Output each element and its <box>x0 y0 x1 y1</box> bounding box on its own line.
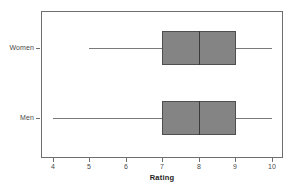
median-men <box>199 101 200 135</box>
xtick-mark-10 <box>272 158 273 162</box>
ytick-mark-men <box>36 118 40 119</box>
xtick-mark-5 <box>89 158 90 162</box>
ytick-label-women: Women <box>0 44 34 51</box>
xtick-label-9: 9 <box>233 163 237 170</box>
xtick-label-7: 7 <box>160 163 164 170</box>
ytick-mark-women <box>36 48 40 49</box>
xtick-mark-9 <box>235 158 236 162</box>
xtick-mark-8 <box>199 158 200 162</box>
xtick-mark-6 <box>126 158 127 162</box>
xtick-label-6: 6 <box>124 163 128 170</box>
xtick-mark-7 <box>162 158 163 162</box>
xtick-label-10: 10 <box>268 163 276 170</box>
boxplot-figure: Women Men 4 5 6 7 8 9 10 Rating <box>0 0 301 186</box>
ytick-label-men: Men <box>0 114 34 121</box>
xtick-label-8: 8 <box>197 163 201 170</box>
xtick-mark-4 <box>53 158 54 162</box>
median-women <box>199 31 200 65</box>
xaxis-title: Rating <box>150 173 175 182</box>
xtick-label-5: 5 <box>87 163 91 170</box>
xtick-label-4: 4 <box>51 163 55 170</box>
